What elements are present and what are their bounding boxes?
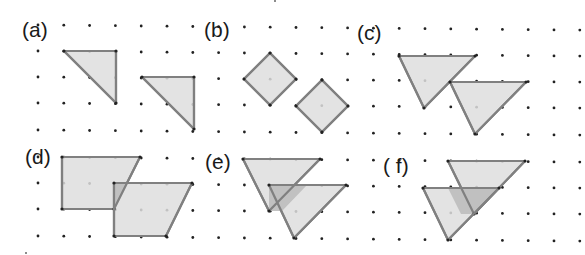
panel-label-d: (d) — [25, 146, 51, 167]
grid-dot — [140, 103, 143, 106]
grid-dot — [37, 208, 40, 211]
grid-dot — [372, 132, 375, 135]
vertex-dot — [397, 54, 400, 57]
grid-dot — [449, 28, 452, 31]
vertex-dot — [344, 183, 347, 186]
grid-dot — [243, 237, 246, 240]
grid-dot — [166, 25, 169, 28]
grid-dot — [553, 240, 556, 243]
vertex-dot — [524, 80, 527, 83]
grid-dot — [295, 131, 298, 134]
grid-dot — [527, 160, 530, 163]
grid-dot — [501, 239, 504, 242]
grid-dot — [140, 51, 143, 54]
vertex-dot — [421, 186, 424, 189]
vertex-dot — [138, 155, 141, 158]
grid-dot — [269, 237, 272, 240]
grid-dot — [140, 25, 143, 28]
vertex-dot — [267, 183, 270, 186]
grid-dot — [424, 159, 427, 162]
grid-dot — [398, 27, 401, 30]
vertex-dot — [190, 181, 193, 184]
grid-dot — [217, 236, 220, 239]
shape-d-trapezoid-2 — [114, 183, 192, 236]
vertex-dot — [268, 103, 271, 106]
grid-dot — [217, 103, 220, 106]
grid-dot — [578, 81, 581, 84]
grid-dot — [553, 81, 556, 84]
grid-dot — [527, 212, 530, 215]
grid-dot — [346, 53, 349, 56]
grid-dot — [578, 161, 581, 164]
grid-dot — [372, 159, 375, 162]
grid-dot — [88, 102, 91, 105]
grid-dot — [320, 237, 323, 240]
grid-dot — [553, 213, 556, 216]
panel-label-a: (a) — [22, 19, 48, 40]
grid-dot — [166, 130, 169, 133]
grid-dot — [88, 235, 91, 238]
grid-dot — [372, 53, 375, 56]
vertex-dot — [114, 101, 117, 104]
grid-dot — [114, 24, 117, 27]
grid-dot — [140, 130, 143, 133]
grid-dot — [346, 27, 349, 30]
vertex-dot — [62, 49, 65, 52]
vertex-dot — [446, 238, 449, 241]
grid-dot — [217, 183, 220, 186]
grid-dot — [62, 102, 65, 105]
grid-dot — [398, 185, 401, 188]
grid-dot — [527, 54, 530, 57]
grid-dot — [62, 129, 65, 132]
vertex-dot — [164, 234, 167, 237]
grid-dot — [527, 106, 530, 109]
grid-dot — [62, 76, 65, 79]
grid-dot — [501, 212, 504, 215]
grid-dot — [346, 132, 349, 135]
grid-dot — [166, 157, 169, 160]
grid-dot — [217, 130, 220, 133]
grid-dot — [578, 240, 581, 243]
shape-b-square-1 — [244, 53, 296, 105]
vertex-dot — [268, 51, 271, 54]
vertex-dot — [294, 77, 297, 80]
vertex-dot — [114, 49, 117, 52]
grid-dot — [217, 209, 220, 212]
grid-dot — [475, 28, 478, 31]
figure-canvas — [0, 0, 585, 255]
panel-label-e: (e) — [205, 151, 231, 172]
vertex-dot — [448, 80, 451, 83]
grid-dot — [269, 26, 272, 29]
grid-dot — [449, 106, 452, 109]
grid-dot — [320, 52, 323, 55]
grid-dot — [578, 29, 581, 32]
grid-dot — [243, 104, 246, 107]
grid-dot — [114, 129, 117, 132]
grid-dot — [527, 133, 530, 136]
grid-dot — [217, 77, 220, 80]
grid-dot — [578, 213, 581, 216]
grid-dot — [372, 105, 375, 108]
grid-dot — [424, 132, 427, 135]
vertex-dot — [446, 159, 449, 162]
panel-label-b: (b) — [204, 19, 230, 40]
grid-dot — [553, 161, 556, 164]
grid-dot — [578, 134, 581, 137]
grid-dot — [553, 29, 556, 32]
grid-dot — [37, 129, 40, 132]
grid-dot — [372, 238, 375, 241]
grid-dot — [295, 26, 298, 29]
vertex-dot — [523, 159, 526, 162]
grid-dot — [578, 55, 581, 58]
grid-dot — [578, 187, 581, 190]
grid-dot — [424, 211, 427, 214]
grid-dot — [424, 27, 427, 30]
grid-dot — [37, 182, 40, 185]
grid-dot — [88, 129, 91, 132]
grid-dot — [501, 54, 504, 57]
vertex-dot — [318, 157, 321, 160]
grid-dot — [346, 211, 349, 214]
grid-dot — [191, 157, 194, 160]
vertex-dot — [292, 236, 295, 239]
grid-dot — [166, 51, 169, 54]
